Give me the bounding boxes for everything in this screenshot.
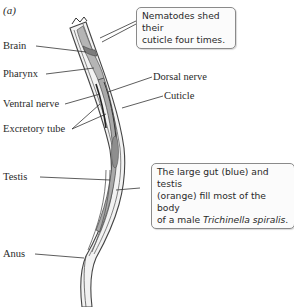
callout-bottom-line3: of a male Trichinella spiralis. xyxy=(157,214,289,226)
label-cuticle: Cuticle xyxy=(164,90,194,102)
callout-gut-testis: The large gut (blue) and testis (orange)… xyxy=(151,163,294,229)
testis-shape xyxy=(112,136,119,168)
callout-top-line1: Nematodes shed their xyxy=(142,10,230,34)
callout-bottom-line2: (orange) fill most of the body xyxy=(157,190,289,214)
label-anus: Anus xyxy=(3,248,25,260)
label-brain: Brain xyxy=(3,40,26,52)
label-testis: Testis xyxy=(3,171,27,183)
label-dorsal-nerve: Dorsal nerve xyxy=(153,71,207,83)
callout-bottom-line1: The large gut (blue) and testis xyxy=(157,166,289,190)
panel-label: (a) xyxy=(3,4,16,16)
label-excretory-tube: Excretory tube xyxy=(3,123,65,135)
species-name: Trichinella spiralis xyxy=(203,214,285,225)
callout-top-line2: cuticle four times. xyxy=(142,34,230,46)
callout-cuticle-shedding: Nematodes shed their cuticle four times. xyxy=(136,7,236,49)
label-ventral-nerve: Ventral nerve xyxy=(3,98,59,110)
label-pharynx: Pharynx xyxy=(3,68,38,80)
